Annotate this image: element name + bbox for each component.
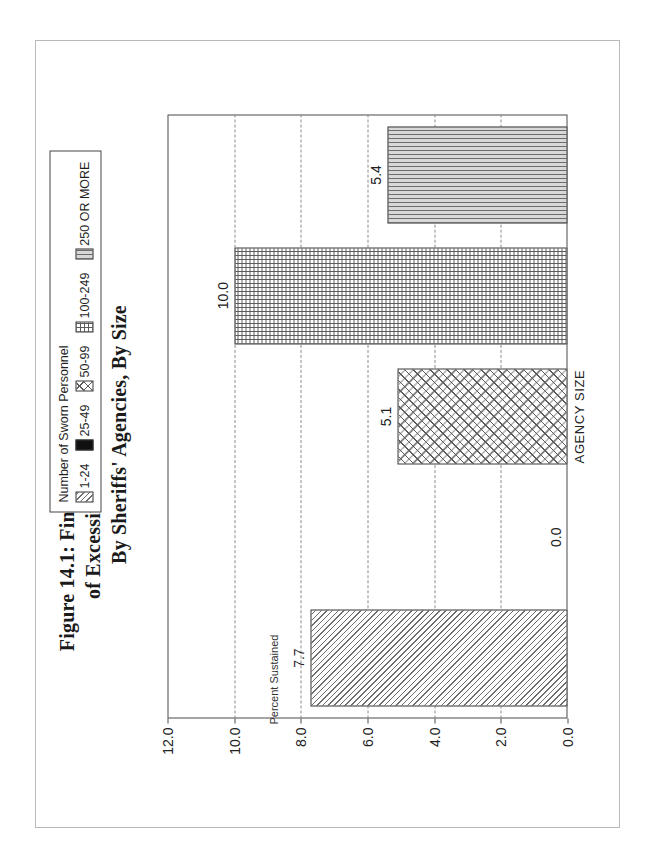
y-axis-tick-label: 12.0 bbox=[159, 727, 175, 754]
legend-swatch-solid-black-icon bbox=[75, 439, 93, 450]
legend-label-50-99: 50-99 bbox=[77, 345, 91, 377]
bar-1-24[interactable] bbox=[310, 609, 567, 706]
bar-value-label: 7.7 bbox=[290, 648, 306, 667]
legend-swatch-vertical-lines-icon bbox=[75, 248, 93, 259]
legend-item-1-24[interactable]: 1-24 bbox=[75, 463, 93, 502]
legend-item-50-99[interactable]: 50-99 bbox=[75, 345, 93, 391]
y-axis-tick-mark bbox=[567, 718, 568, 723]
bar-100-249[interactable] bbox=[234, 247, 567, 344]
y-axis-tick-mark bbox=[300, 718, 301, 723]
gridline bbox=[300, 114, 301, 718]
legend-item-25-49[interactable]: 25-49 bbox=[75, 404, 93, 450]
x-axis-title: AGENCY SIZE bbox=[571, 114, 586, 718]
legend-swatch-fine-grid-icon bbox=[75, 321, 93, 332]
y-axis-tick-mark bbox=[367, 718, 368, 723]
y-axis-tick-label: 6.0 bbox=[359, 727, 375, 746]
legend-item-100-249[interactable]: 100-249 bbox=[75, 272, 93, 332]
y-axis-tick-mark bbox=[234, 718, 235, 723]
legend-label-250-or-more: 250 OR MORE bbox=[77, 161, 91, 245]
y-axis-tick-label: 0.0 bbox=[559, 727, 575, 746]
figure-rotation-wrapper: Figure 14.1: Final Disposition of 1991 C… bbox=[35, 40, 620, 828]
bar-value-label: 5.1 bbox=[377, 406, 393, 425]
y-axis-tick-label: 4.0 bbox=[426, 727, 442, 746]
legend-label-1-24: 1-24 bbox=[77, 463, 91, 488]
bar-value-label: 0.0 bbox=[547, 527, 563, 546]
y-axis-tick-label: 10.0 bbox=[226, 727, 242, 754]
figure-title-line-3: By Sheriffs' Agencies, By Size bbox=[105, 40, 131, 828]
y-axis-tick-label: 2.0 bbox=[492, 727, 508, 746]
legend-swatch-diagonal-hatch-icon bbox=[75, 491, 93, 502]
legend-swatch-crosshatch-icon bbox=[75, 380, 93, 391]
legend-item-list: 1-24 25-49 50-99 100-249 250 OR MORE bbox=[75, 161, 93, 502]
bar-value-label: 10.0 bbox=[214, 282, 230, 309]
legend-item-250-or-more[interactable]: 250 OR MORE bbox=[75, 161, 93, 259]
legend-label-100-249: 100-249 bbox=[77, 272, 91, 318]
y-axis-tick-mark bbox=[500, 718, 501, 723]
y-axis-title: Percent Sustained bbox=[267, 634, 279, 724]
legend-title: Number of Sworn Personnel bbox=[56, 161, 70, 502]
figure-canvas: Figure 14.1: Final Disposition of 1991 C… bbox=[35, 40, 620, 828]
gridline bbox=[234, 114, 235, 718]
y-axis-tick-label: 8.0 bbox=[292, 727, 308, 746]
chart-legend: Number of Sworn Personnel 1-24 25-49 50-… bbox=[49, 150, 101, 512]
bar-value-label: 5.4 bbox=[367, 165, 383, 184]
bar-50-99[interactable] bbox=[397, 368, 567, 465]
legend-label-25-49: 25-49 bbox=[77, 404, 91, 436]
bar-250-or-more[interactable] bbox=[387, 126, 567, 223]
y-axis-tick-mark bbox=[434, 718, 435, 723]
plot-area: Percent Sustained 0.02.04.06.08.010.012.… bbox=[167, 114, 567, 718]
y-axis-tick-mark bbox=[167, 718, 168, 723]
